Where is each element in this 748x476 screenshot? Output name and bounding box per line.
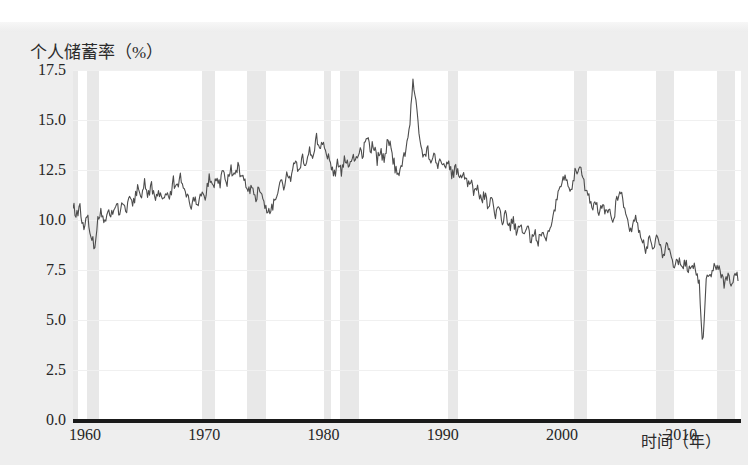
y-tick-label: 2.5 [20,361,66,379]
plot-area [73,70,741,420]
y-axis-tick-labels: 0.02.55.07.510.012.515.017.5 [16,22,66,465]
page-canvas: 个人储蓄率（%） 0.02.55.07.510.012.515.017.5 时间… [0,0,748,476]
x-axis-line [73,419,741,423]
savings-rate-line [73,79,738,339]
savings-rate-figure: 个人储蓄率（%） 0.02.55.07.510.012.515.017.5 时间… [0,22,748,465]
x-tick-label: 2010 [665,426,697,444]
x-tick-label: 1960 [69,426,101,444]
y-tick-label: 5.0 [20,311,66,329]
x-axis-tick-labels: 时间（年） 196019701980199020002010 [0,426,748,458]
series-line-savings-rate [73,70,741,420]
x-tick-label: 1990 [427,426,459,444]
y-tick-label: 15.0 [20,111,66,129]
y-tick-label: 12.5 [20,161,66,179]
x-tick-label: 1980 [308,426,340,444]
y-tick-label: 17.5 [20,61,66,79]
y-tick-label: 10.0 [20,211,66,229]
x-tick-label: 2000 [546,426,578,444]
y-tick-label: 7.5 [20,261,66,279]
x-tick-label: 1970 [188,426,220,444]
